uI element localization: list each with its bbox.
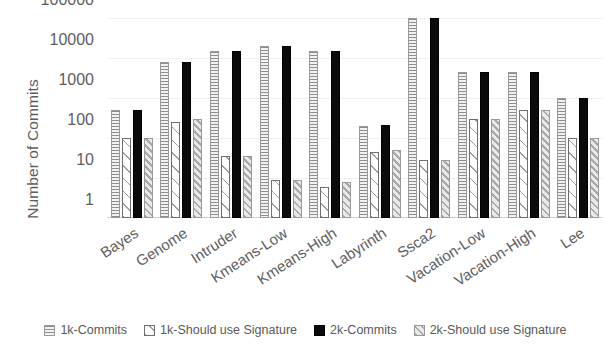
y-axis-tick-label: 100000	[41, 0, 94, 9]
y-axis-tick-label: 10	[76, 151, 94, 169]
bar	[144, 138, 153, 218]
bar	[342, 182, 351, 218]
bar	[541, 110, 550, 218]
bar	[441, 160, 450, 218]
bar	[370, 152, 379, 218]
bar	[359, 126, 368, 218]
bar	[260, 46, 269, 218]
y-axis-tick-labels: 110100100010000100000	[0, 0, 100, 200]
legend-item[interactable]: 2k-Commits	[314, 324, 397, 337]
chart-legend: 1k-Commits1k-Should use Signature2k-Comm…	[0, 324, 611, 337]
legend-swatch	[314, 325, 325, 336]
bar	[408, 18, 417, 218]
legend-label: 1k-Should use Signature	[160, 324, 297, 337]
bar-chart: Number of Commits 110100100010000100000 …	[0, 0, 611, 345]
bar	[182, 62, 191, 218]
x-axis-tick: Labyrinth	[355, 220, 405, 315]
bar-groups	[107, 18, 603, 218]
legend-item[interactable]: 1k-Should use Signature	[144, 324, 297, 337]
bar	[331, 51, 340, 218]
bar	[530, 72, 539, 218]
legend-swatch	[414, 325, 425, 336]
x-axis-tick-label: Lee	[557, 224, 587, 252]
bar	[221, 156, 230, 218]
bar	[293, 180, 302, 218]
bar	[590, 138, 599, 218]
bar-group	[206, 18, 256, 218]
bar-group	[305, 18, 355, 218]
bar-group	[553, 18, 603, 218]
bar-group	[157, 18, 207, 218]
bar	[320, 187, 329, 218]
bar	[122, 138, 131, 218]
bar	[171, 122, 180, 218]
bar	[160, 62, 169, 218]
legend-label: 2k-Should use Signature	[430, 324, 567, 337]
bar-group	[454, 18, 504, 218]
bar	[133, 110, 142, 218]
x-axis-tick: Kmeans-High	[305, 220, 355, 315]
bar	[309, 51, 318, 218]
x-axis-tick: Genome	[157, 220, 207, 315]
legend-swatch	[44, 325, 55, 336]
bar	[579, 98, 588, 218]
bar	[508, 72, 517, 218]
legend-item[interactable]: 1k-Commits	[44, 324, 127, 337]
bar-group	[256, 18, 306, 218]
y-axis-tick-label: 10000	[50, 31, 95, 49]
bar	[193, 119, 202, 218]
bar-group	[355, 18, 405, 218]
bar-group	[504, 18, 554, 218]
bar	[392, 150, 401, 218]
bar	[210, 51, 219, 218]
bar	[243, 156, 252, 218]
y-axis-tick-label: 100	[67, 111, 94, 129]
bar	[232, 51, 241, 218]
bar	[557, 98, 566, 218]
bar	[271, 180, 280, 218]
x-axis-tick: Lee	[553, 220, 603, 315]
bar	[381, 125, 390, 218]
legend-swatch	[144, 325, 155, 336]
bar	[111, 110, 120, 218]
bar	[458, 72, 467, 218]
bar	[282, 46, 291, 218]
bar	[469, 119, 478, 218]
bar	[519, 110, 528, 218]
bar	[480, 72, 489, 218]
x-axis-tick: Vacation-High	[504, 220, 554, 315]
bar	[491, 119, 500, 218]
legend-item[interactable]: 2k-Should use Signature	[414, 324, 567, 337]
bar	[419, 160, 428, 218]
bar	[568, 138, 577, 218]
x-axis-tick-labels: BayesGenomeIntruderKmeans-LowKmeans-High…	[107, 220, 603, 315]
y-axis-tick-label: 1	[85, 191, 94, 209]
bar-group	[405, 18, 455, 218]
bar-group	[107, 18, 157, 218]
legend-label: 1k-Commits	[60, 324, 127, 337]
plot-area	[107, 18, 603, 218]
legend-label: 2k-Commits	[330, 324, 397, 337]
bar	[430, 18, 439, 218]
x-axis-tick: Bayes	[107, 220, 157, 315]
y-axis-tick-label: 1000	[58, 71, 94, 89]
